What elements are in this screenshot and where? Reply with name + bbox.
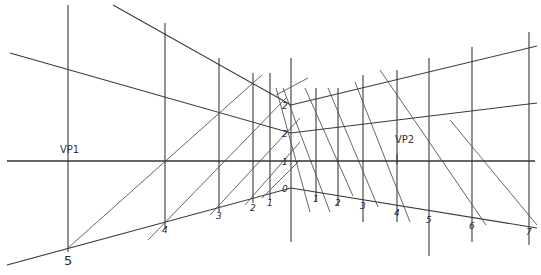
center-mark-label: 2 <box>282 101 288 111</box>
right-ground-mark-label: 5 <box>426 215 432 225</box>
perspective-diagram: VP1 VP2 2210543211234567 <box>0 0 541 275</box>
left-ground-mark-label: 3 <box>216 211 222 221</box>
right-ground-mark-label: 6 <box>469 221 475 231</box>
right-ground-mark-label: 1 <box>313 194 319 204</box>
center-mark-label: 2 <box>282 129 288 139</box>
right-ground-mark-label: 2 <box>335 198 341 208</box>
right-ground-mark-label: 3 <box>360 201 366 211</box>
vp2-label: VP2 <box>395 134 414 145</box>
left-ground-mark-label: 4 <box>162 225 168 235</box>
center-mark-label: 0 <box>282 184 288 194</box>
left-ground-mark-label: 5 <box>64 253 72 268</box>
left-ground-mark-label: 2 <box>250 203 256 213</box>
right-ground-mark-label: 4 <box>394 208 400 218</box>
left-ground-mark-label: 1 <box>267 198 273 208</box>
right-ground-mark-label: 7 <box>526 227 532 237</box>
center-mark-label: 1 <box>282 157 288 167</box>
vp1-label: VP1 <box>60 144 79 155</box>
